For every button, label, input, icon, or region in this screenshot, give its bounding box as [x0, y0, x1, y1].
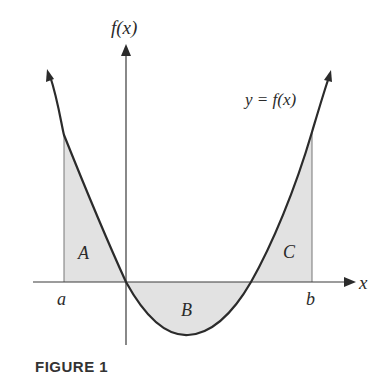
curve-left-arrow-icon: [46, 69, 54, 82]
region-label-c: C: [283, 242, 296, 262]
shaded-region-c: [251, 132, 312, 282]
region-label-b: B: [181, 300, 192, 320]
x-axis-label: x: [358, 272, 368, 293]
curve-label: y = f(x): [243, 90, 296, 109]
x-axis-arrow-icon: [344, 277, 356, 287]
region-label-a: A: [77, 243, 90, 263]
y-axis-label: f(x): [111, 17, 137, 39]
curve-right-arrow-icon: [324, 70, 332, 82]
y-axis: [121, 44, 131, 345]
bound-label-b: b: [306, 289, 315, 309]
y-axis-arrow-icon: [121, 44, 131, 56]
bound-label-a: a: [57, 289, 66, 309]
figure-caption: FIGURE 1: [35, 358, 108, 375]
